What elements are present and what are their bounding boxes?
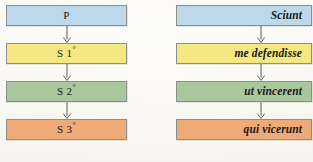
connector-right-0 <box>254 26 268 44</box>
column-latin-example-sequence: Sciunt me defendisse ut vincerent <box>176 0 312 162</box>
connector-left-2 <box>60 102 74 120</box>
node-left-1[interactable]: S 1° <box>6 43 127 64</box>
connector-right-1 <box>254 64 268 82</box>
node-right-1-label: me defendisse <box>177 48 311 60</box>
node-right-0[interactable]: Sciunt <box>176 5 312 26</box>
connector-right-2 <box>254 102 268 120</box>
node-left-0[interactable]: P <box>6 5 127 26</box>
column-abstract-sequence: P S 1° S 2° S 3° <box>6 0 127 162</box>
node-left-3-label: S 3° <box>7 124 126 135</box>
node-left-0-label: P <box>7 10 126 21</box>
node-right-3-label: qui vicerunt <box>177 124 311 136</box>
node-right-2-label: ut vincerent <box>177 86 311 98</box>
node-right-3[interactable]: qui vicerunt <box>176 119 312 140</box>
node-right-2[interactable]: ut vincerent <box>176 81 312 102</box>
node-left-1-label: S 1° <box>7 48 126 59</box>
flow-diagram: P S 1° S 2° S 3° <box>0 0 313 162</box>
node-left-2-label: S 2° <box>7 86 126 97</box>
node-left-3[interactable]: S 3° <box>6 119 127 140</box>
connector-left-0 <box>60 26 74 44</box>
connector-left-1 <box>60 64 74 82</box>
node-left-2[interactable]: S 2° <box>6 81 127 102</box>
node-right-0-label: Sciunt <box>177 10 311 22</box>
node-right-1[interactable]: me defendisse <box>176 43 312 64</box>
